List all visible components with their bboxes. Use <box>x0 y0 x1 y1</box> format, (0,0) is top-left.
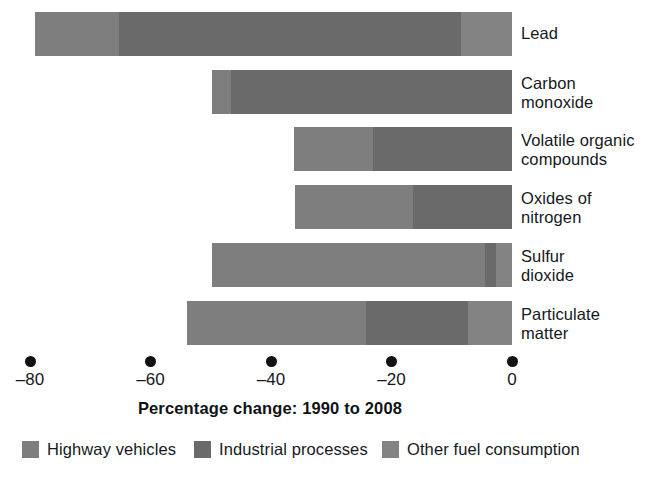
category-label: Volatile organiccompounds <box>521 131 635 169</box>
category-label: Sulfurdioxide <box>521 247 574 285</box>
category-label-line: dioxide <box>521 266 574 285</box>
legend-item[interactable]: Other fuel consumption <box>382 437 580 461</box>
x-axis: –80–60–40–200 <box>0 352 649 398</box>
axis-tick-dot <box>145 356 156 367</box>
stacked-bar <box>294 127 512 171</box>
bar-segment <box>485 243 496 287</box>
bar-segment <box>35 12 119 56</box>
axis-tick-label: 0 <box>507 370 516 390</box>
chart-legend: Highway vehiclesIndustrial processesOthe… <box>22 437 642 463</box>
axis-tick-dot <box>507 356 518 367</box>
bar-segment <box>413 185 512 229</box>
stacked-bar <box>187 301 512 345</box>
bar-segment <box>373 127 512 171</box>
stacked-bar <box>212 70 512 114</box>
category-label-line: Carbon <box>521 74 593 93</box>
category-label-line: Lead <box>521 24 558 43</box>
bar-segment <box>212 70 231 114</box>
axis-tick-dot <box>266 356 277 367</box>
axis-tick-label: –20 <box>377 370 405 390</box>
legend-swatch-icon <box>194 441 211 458</box>
stacked-bar <box>295 185 512 229</box>
category-label: Lead <box>521 24 558 43</box>
category-label-line: Particulate <box>521 305 600 324</box>
bar-segment <box>212 243 485 287</box>
category-label: Carbonmonoxide <box>521 74 593 112</box>
axis-tick-label: –40 <box>257 370 285 390</box>
category-label-line: compounds <box>521 150 635 169</box>
stacked-bar <box>212 243 512 287</box>
legend-label: Highway vehicles <box>47 439 176 459</box>
bar-segment <box>295 185 413 229</box>
axis-tick-dot <box>386 356 397 367</box>
category-label-line: Oxides of <box>521 189 592 208</box>
stacked-bar <box>35 12 512 56</box>
category-label-line: Sulfur <box>521 247 574 266</box>
bar-segment <box>461 12 512 56</box>
bar-segment <box>366 301 468 345</box>
category-label-line: monoxide <box>521 93 593 112</box>
x-axis-title: Percentage change: 1990 to 2008 <box>0 399 540 418</box>
category-label-line: nitrogen <box>521 208 592 227</box>
legend-swatch-icon <box>22 441 39 458</box>
legend-label: Industrial processes <box>219 439 368 459</box>
bar-segment <box>119 12 462 56</box>
bar-segment <box>294 127 373 171</box>
legend-item[interactable]: Highway vehicles <box>22 437 176 461</box>
category-label: Particulatematter <box>521 305 600 343</box>
bar-segment <box>231 70 512 114</box>
legend-swatch-icon <box>382 441 399 458</box>
bar-segment <box>468 301 512 345</box>
legend-item[interactable]: Industrial processes <box>194 437 368 461</box>
category-label-line: Volatile organic <box>521 131 635 150</box>
bar-segment <box>187 301 366 345</box>
axis-tick-label: –60 <box>136 370 164 390</box>
stacked-bar-chart: LeadCarbonmonoxideVolatile organiccompou… <box>0 0 649 501</box>
plot-area: LeadCarbonmonoxideVolatile organiccompou… <box>0 0 649 350</box>
axis-tick-label: –80 <box>16 370 44 390</box>
legend-label: Other fuel consumption <box>407 439 580 459</box>
category-label-line: matter <box>521 324 600 343</box>
axis-tick-dot <box>25 356 36 367</box>
category-label: Oxides ofnitrogen <box>521 189 592 227</box>
bar-segment <box>496 243 512 287</box>
